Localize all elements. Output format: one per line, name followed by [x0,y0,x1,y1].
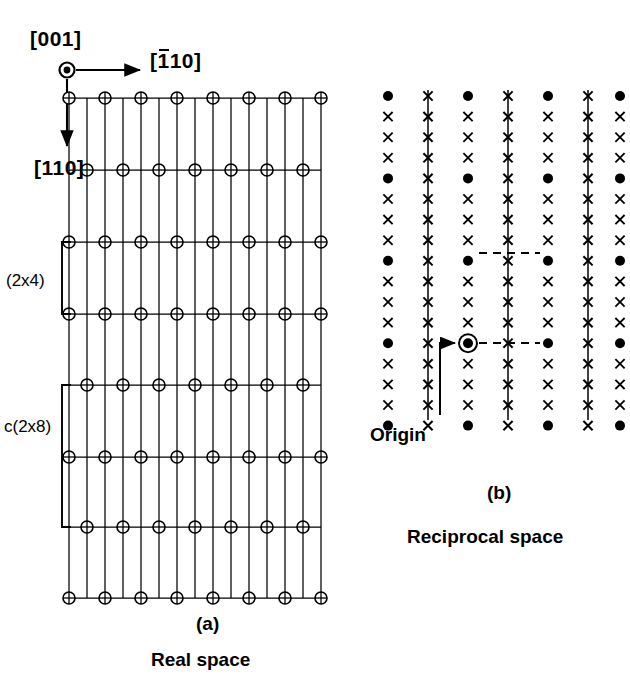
reciprocal-bragg-dot [615,256,625,266]
figure-canvas [0,0,630,691]
reciprocal-space-lattice [383,90,625,431]
figure-root: [001] [110] [110] (2x4) c(2x8) (a) Real … [0,0,630,691]
reciprocal-bragg-dot [463,173,473,183]
reciprocal-bragg-dot [543,173,553,183]
origin-pointer [440,343,455,415]
reciprocal-origin-dot [463,338,473,348]
reciprocal-bragg-dot [463,421,473,431]
reciprocal-bragg-dot [383,173,393,183]
panel-label-a: (a) [196,614,219,633]
panel-label-b: (b) [487,483,511,502]
reciprocal-bragg-dot [383,256,393,266]
direction-label-110: [110] [34,157,84,178]
direction-label-m110: [110] [150,50,202,71]
overbar-group: 1 [158,50,170,71]
reciprocal-bragg-dot [543,338,553,348]
reconstruction-label-c2x8: c(2x8) [4,418,51,435]
origin-label: Origin [370,425,426,444]
reciprocal-bragg-dot [543,256,553,266]
reciprocal-bragg-dot [543,421,553,431]
panel-caption-real-space: Real space [151,650,250,669]
origin-arrow [440,343,455,415]
reciprocal-bragg-dot [615,338,625,348]
reconstruction-brackets [62,242,71,527]
reciprocal-bragg-dot [615,421,625,431]
overbar-digit: 1 [158,49,170,72]
reconstruction-bracket [62,242,71,314]
reciprocal-bragg-dot [463,91,473,101]
real-space-lattice [63,92,327,604]
reciprocal-bragg-dot [615,173,625,183]
reciprocal-bragg-dot [383,91,393,101]
reciprocal-bragg-dot [615,91,625,101]
overbar [159,49,169,51]
panel-caption-reciprocal-space: Reciprocal space [407,527,563,546]
direction-label-001: [001] [30,28,82,49]
reciprocal-bragg-dot [383,338,393,348]
direction-rest: 10] [170,49,202,72]
bracket-open: [ [150,49,158,72]
reconstruction-label-2x4: (2x4) [6,272,45,289]
axis-origin-dot [64,67,71,74]
reciprocal-bragg-dot [463,256,473,266]
reciprocal-bragg-dot [543,91,553,101]
